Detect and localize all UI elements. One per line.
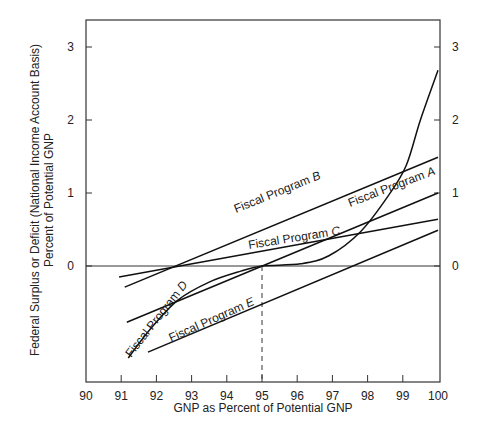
x-tick-label: 99 — [396, 389, 410, 403]
y-tick-label-right: 0 — [452, 259, 459, 273]
series-label-c: Fiscal Program C — [247, 224, 341, 252]
x-tick-label: 92 — [150, 389, 164, 403]
series-label-e: Fiscal Program E — [167, 294, 258, 345]
y-tick-label: 0 — [67, 259, 74, 273]
series-labels: Fiscal Program AFiscal Program BFiscal P… — [122, 164, 437, 360]
y-tick-label-right: 3 — [452, 40, 459, 54]
chart-canvas: 90919293949596979899100 01230123 Fiscal … — [0, 0, 480, 444]
y-axis-title-line2: Percent of Potential GNP — [42, 133, 56, 267]
x-tick-label: 100 — [428, 389, 448, 403]
y-tick-label: 3 — [67, 40, 74, 54]
x-axis-title: GNP as Percent of Potential GNP — [173, 401, 352, 415]
y-tick-label: 2 — [67, 113, 74, 127]
x-tick-label: 98 — [361, 389, 375, 403]
reference-lines — [86, 266, 440, 382]
series-label-a: Fiscal Program A — [346, 164, 437, 210]
series-label-b: Fiscal Program B — [232, 168, 323, 215]
series-label-d: Fiscal Program D — [122, 278, 190, 360]
y-tick-label-right: 1 — [452, 186, 459, 200]
series-line-d — [128, 70, 438, 358]
x-tick-label: 90 — [79, 389, 93, 403]
y-tick-label-right: 2 — [452, 113, 459, 127]
y-axis-title-line1: Federal Surplus or Deficit (National Inc… — [28, 44, 42, 356]
x-tick-label: 91 — [115, 389, 129, 403]
x-axis-ticks: 90919293949596979899100 — [79, 375, 448, 403]
series-line-c — [119, 219, 438, 277]
y-tick-label: 1 — [67, 186, 74, 200]
